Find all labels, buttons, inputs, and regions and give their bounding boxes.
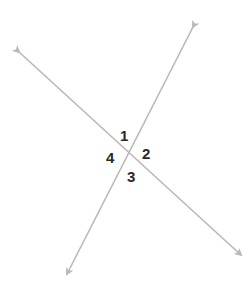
angle-label-4: 4: [106, 150, 114, 165]
angle-label-2: 2: [142, 146, 150, 161]
line-b: [67, 27, 193, 274]
line-a: [19, 52, 241, 255]
angle-label-1: 1: [120, 128, 128, 143]
angle-label-3: 3: [127, 169, 135, 184]
intersecting-lines-diagram: [0, 0, 251, 299]
